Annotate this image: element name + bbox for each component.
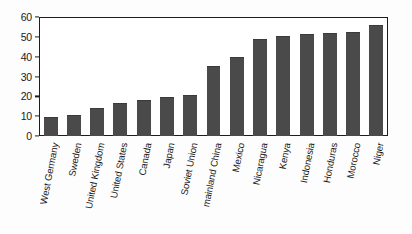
x-axis-tick-label-text: Indonesia	[298, 140, 316, 184]
y-axis-tick-label: 30	[21, 71, 32, 82]
x-axis-tick-label-text: Japan	[162, 140, 177, 169]
y-axis-tick-label: 20	[21, 91, 32, 102]
x-axis-tick-label-text: Morocco	[346, 140, 363, 179]
x-axis-tick-label-text: Kenya	[278, 140, 293, 170]
y-axis-tick-label: 0	[26, 131, 32, 142]
y-axis-tick-label: 10	[21, 111, 32, 122]
bar-chart-figure: 0102030405060 West GermanySwedenUnited K…	[0, 0, 412, 234]
x-axis-tick-label-text: Niger	[372, 140, 386, 166]
x-axis-tick-label-text: Sweden	[67, 140, 83, 177]
x-axis-tick-label-text: West Germany	[38, 140, 60, 205]
x-axis-tick-label-text: Mexico	[231, 140, 246, 173]
y-axis: 0102030405060	[0, 0, 39, 234]
x-axis-tick-label-text: United Kingdom	[84, 140, 107, 209]
x-axis-tick-label-text: Soviet Union	[180, 140, 200, 196]
x-axis-tick-label-text: Honduras	[322, 140, 340, 184]
x-axis-tick-label-text: United States	[109, 140, 130, 199]
y-axis-tick-label: 60	[21, 12, 32, 23]
y-axis-tick-label: 40	[21, 51, 32, 62]
y-axis-tick-label: 50	[21, 32, 32, 43]
x-axis-tick-label-text: Nicaragua	[251, 140, 269, 186]
x-axis-tick-label-text: Canada	[137, 140, 153, 176]
x-axis-labels: West GermanySwedenUnited KingdomUnited S…	[39, 136, 388, 234]
x-axis-tick-label-text: mainland China	[201, 140, 223, 208]
